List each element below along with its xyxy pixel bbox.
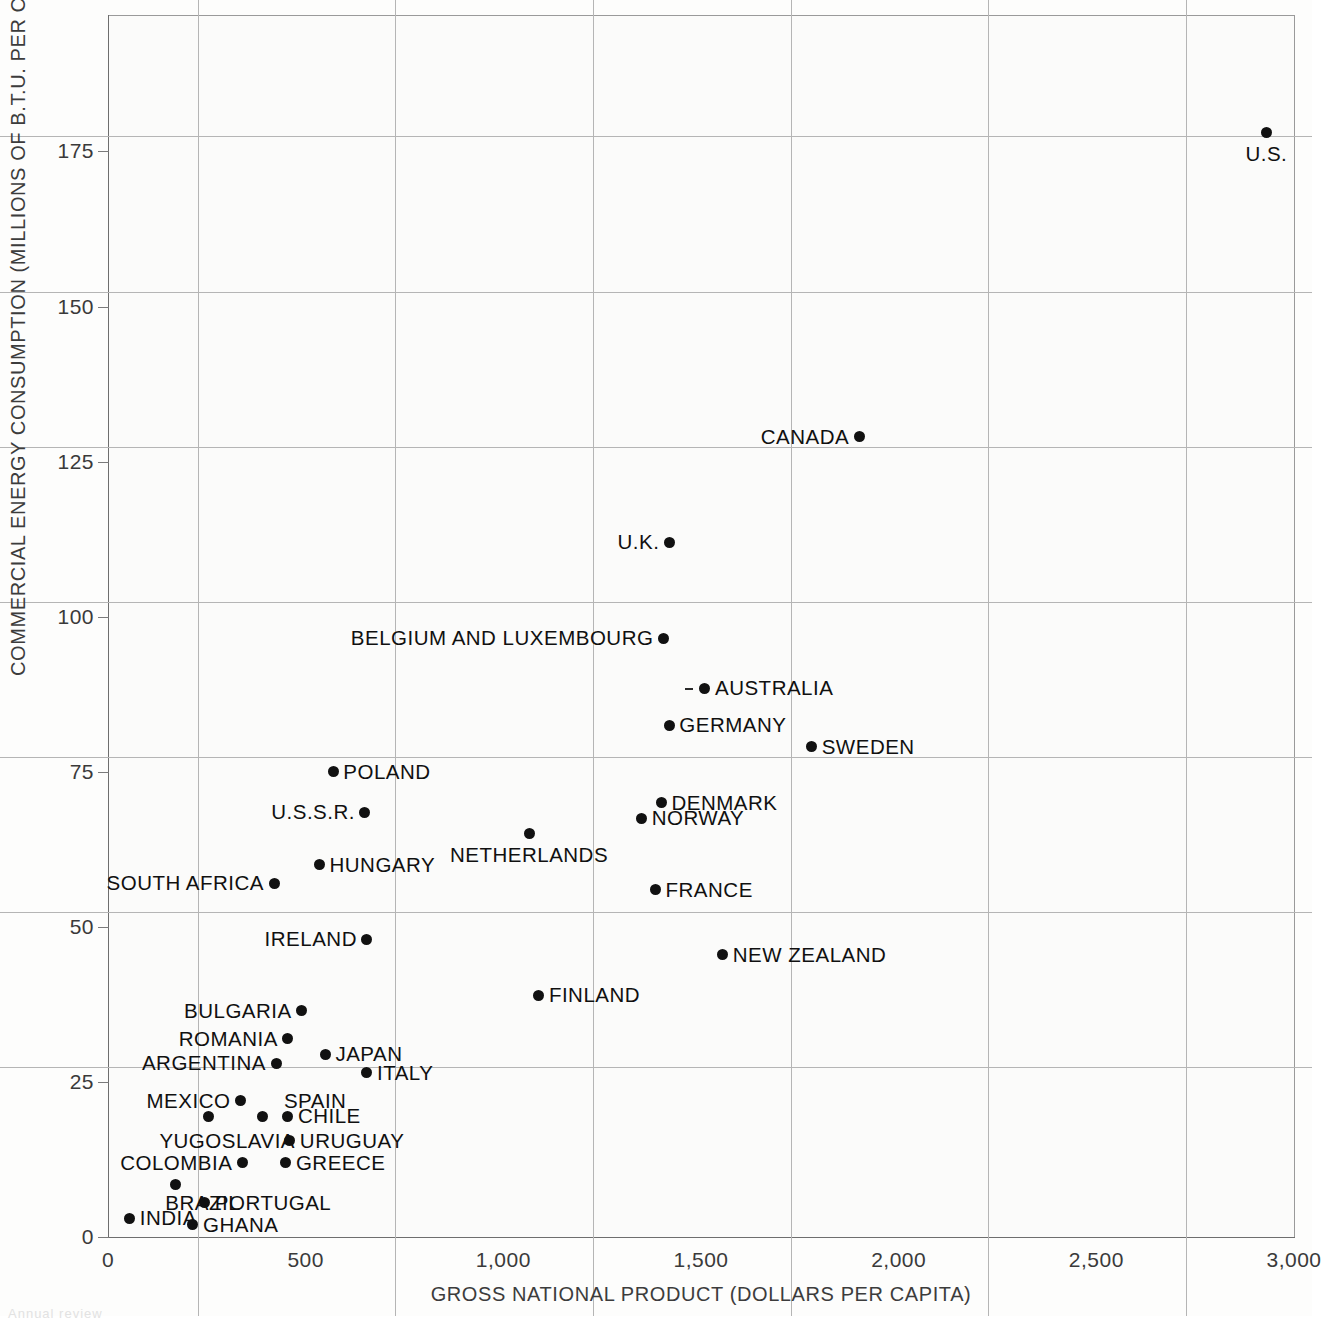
data-point-label: MEXICO	[147, 1089, 231, 1113]
data-point-label: SPAIN	[284, 1089, 347, 1113]
y-axis-line	[108, 15, 109, 1238]
data-point-label: U.K.	[617, 530, 659, 554]
data-point	[533, 990, 544, 1001]
data-point-label: SWEDEN	[822, 735, 915, 759]
y-tick-mark	[98, 927, 109, 928]
y-tick-label: 125	[57, 450, 94, 474]
data-point	[636, 813, 647, 824]
data-point	[664, 537, 675, 548]
data-point-label: BRAZIL	[165, 1191, 240, 1215]
data-point	[320, 1049, 331, 1060]
data-point-label: U.S.S.R.	[271, 800, 355, 824]
data-point	[235, 1095, 246, 1106]
gridline-vertical	[1186, 0, 1187, 1316]
data-point-label: ITALY	[377, 1061, 433, 1085]
data-point	[203, 1111, 214, 1122]
y-tick-mark	[98, 1082, 109, 1083]
y-tick-mark	[98, 462, 109, 463]
x-tick-label: 2,500	[1069, 1248, 1124, 1272]
data-point-label: GERMANY	[679, 713, 786, 737]
data-point	[237, 1157, 248, 1168]
axis-right-border	[1294, 15, 1295, 1238]
data-point	[170, 1179, 181, 1190]
plot-area	[108, 15, 1294, 1237]
y-tick-label: 150	[57, 295, 94, 319]
data-point-label: AUSTRALIA	[715, 676, 833, 700]
bottom-caption: Annual review	[8, 1306, 103, 1321]
data-point-label: U.S.	[1245, 142, 1287, 166]
y-tick-mark	[98, 151, 109, 152]
gridline-vertical	[593, 0, 594, 1316]
x-axis-title: GROSS NATIONAL PRODUCT (DOLLARS PER CAPI…	[108, 1283, 1294, 1306]
x-tick-label: 500	[287, 1248, 324, 1272]
x-tick-label: 1,000	[476, 1248, 531, 1272]
data-point	[524, 828, 535, 839]
gridline-horizontal	[0, 757, 1312, 758]
x-axis-line	[108, 1237, 1295, 1238]
gridline-horizontal	[0, 136, 1312, 137]
data-point-label: IRELAND	[265, 927, 357, 951]
gridline-vertical	[988, 0, 989, 1316]
data-point-label: NEW ZEALAND	[733, 943, 887, 967]
x-tick-label: 0	[102, 1248, 114, 1272]
data-point	[664, 720, 675, 731]
y-tick-mark	[98, 307, 109, 308]
data-point-label: GHANA	[203, 1213, 278, 1237]
data-point-label: BELGIUM AND LUXEMBOURG	[351, 626, 654, 650]
axis-top-border	[108, 15, 1295, 16]
x-tick-label: 1,500	[673, 1248, 728, 1272]
data-point-label: SOUTH AFRICA	[107, 871, 265, 895]
y-axis-title: COMMERCIAL ENERGY CONSUMPTION (MILLIONS …	[7, 0, 30, 676]
x-tick-label: 2,000	[871, 1248, 926, 1272]
data-point	[658, 633, 669, 644]
data-point-label: YUGOSLAVIA	[159, 1129, 295, 1153]
gridline-horizontal	[0, 292, 1312, 293]
data-point-label: NORWAY	[652, 806, 745, 830]
data-point	[854, 431, 865, 442]
gridline-horizontal	[0, 912, 1312, 913]
y-tick-mark	[98, 1237, 109, 1238]
x-tick-label: 3,000	[1266, 1248, 1321, 1272]
data-point-label: GREECE	[296, 1151, 386, 1175]
data-point-label: COLOMBIA	[120, 1151, 232, 1175]
y-tick-label: 175	[57, 139, 94, 163]
y-tick-mark	[98, 772, 109, 773]
data-point-label: FINLAND	[549, 983, 640, 1007]
y-tick-label: 0	[82, 1225, 94, 1249]
y-tick-label: 75	[70, 760, 94, 784]
y-tick-label: 100	[57, 605, 94, 629]
data-point	[257, 1111, 268, 1122]
data-point	[699, 683, 710, 694]
data-point-label: CANADA	[761, 425, 849, 449]
gridline-vertical	[791, 0, 792, 1316]
gridline-horizontal	[0, 447, 1312, 448]
data-point	[269, 878, 280, 889]
data-point-label: HUNGARY	[330, 853, 436, 877]
gridline-vertical	[198, 0, 199, 1316]
y-tick-mark	[98, 617, 109, 618]
data-point-label: NETHERLANDS	[450, 843, 608, 867]
data-point-label: ARGENTINA	[142, 1051, 266, 1075]
data-point	[271, 1058, 282, 1069]
data-point-label: URUGUAY	[300, 1129, 405, 1153]
data-point-label: ROMANIA	[179, 1027, 278, 1051]
dash-artifact	[685, 688, 693, 690]
data-point-label: POLAND	[343, 760, 430, 784]
y-tick-label: 25	[70, 1070, 94, 1094]
data-point-label: FRANCE	[666, 878, 753, 902]
gridline-horizontal	[0, 602, 1312, 603]
gridline-vertical	[395, 0, 396, 1316]
data-point-label: BULGARIA	[184, 999, 292, 1023]
y-tick-label: 50	[70, 915, 94, 939]
data-point	[359, 807, 370, 818]
